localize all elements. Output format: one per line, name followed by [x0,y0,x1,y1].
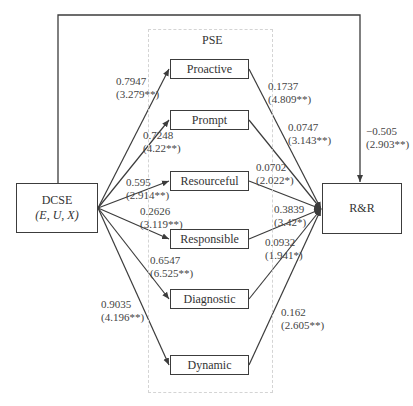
path-b-dynamic-label: 0.162(2.605**) [281,306,324,332]
dcse-node: DCSE (E, U, X) [16,183,98,233]
mediator-prompt: Prompt [170,110,249,130]
mediator-resourceful: Resourceful [170,171,249,191]
pse-group-label: PSE [202,33,223,48]
path-b-resourceful-label: 0.0702(2.022*) [256,161,294,187]
mediator-proactive: Proactive [170,59,249,79]
mediator-label: Diagnostic [184,292,236,307]
path-diagram: PSE DCSE (E, U, X) R&R Proactive Prompt … [0,0,413,406]
path-a-resourceful-label: 0.595(2.914**) [126,176,169,202]
mediator-label: Resourceful [181,174,239,189]
path-a-prompt-label: 0.7248(4.22**) [143,129,181,155]
path-b-proactive-label: 0.1737(4.809**) [268,80,311,106]
rr-node: R&R [322,183,402,234]
mediator-label: Dynamic [188,358,232,373]
direct-path-label: −0.505(2.903**) [366,125,409,151]
path-a-dynamic-label: 0.9035(4.196**) [101,298,144,324]
path-a-proactive-label: 0.7947(3.279**) [116,75,159,101]
mediator-diagnostic: Diagnostic [170,289,249,309]
mediator-label: Responsible [180,232,239,247]
path-b-prompt-label: 0.0747(3.143**) [288,121,331,147]
mediator-label: Proactive [187,62,232,77]
path-a-diagnostic-label: 0.6547(6.525**) [150,254,193,280]
path-b-diagnostic-label: 0.0932(1.941*) [265,236,303,262]
rr-label: R&R [349,201,374,216]
dcse-label: DCSE [42,193,73,208]
mediator-dynamic: Dynamic [170,355,249,375]
path-b-responsible-label: 0.3839(3.42*) [274,203,306,229]
path-a-responsible-label: 0.2626(3.119**) [140,205,183,231]
mediator-responsible: Responsible [170,229,249,249]
mediator-label: Prompt [192,113,227,128]
dcse-sublabel: (E, U, X) [35,208,78,223]
